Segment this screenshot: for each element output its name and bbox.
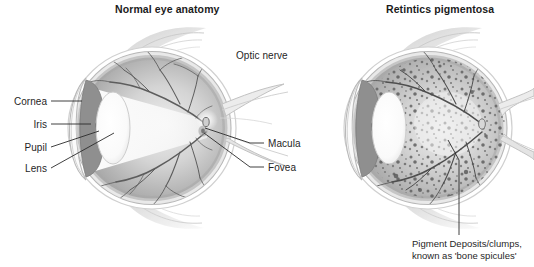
- label-iris: Iris: [0, 119, 47, 130]
- fovea-left: [201, 129, 205, 134]
- panel-title-normal: Normal eye anatomy: [115, 3, 220, 15]
- lens-right: [372, 92, 406, 164]
- caption-line-1: Pigment Deposits/clumps,: [412, 238, 534, 250]
- label-cornea: Cornea: [0, 96, 47, 107]
- retinitis-pigmentosa-eye-diagram: [344, 27, 534, 229]
- eye-comparison-figure: Normal eye anatomy Retintics pigmentosa …: [0, 0, 534, 267]
- label-macula: Macula: [268, 138, 301, 149]
- pigment-deposits-caption: Pigment Deposits/clumps, known as 'bone …: [412, 238, 534, 261]
- caption-line-2: known as 'bone spicules': [412, 250, 534, 262]
- optic-disc-left: [203, 117, 209, 126]
- eye-illustration-canvas: [0, 0, 534, 267]
- panel-title-retinitis: Retintics pigmentosa: [386, 3, 494, 15]
- label-fovea: Fovea: [268, 162, 296, 173]
- optic-disc-right: [479, 119, 486, 129]
- label-lens: Lens: [0, 163, 47, 174]
- lens-left: [96, 92, 130, 164]
- label-pupil: Pupil: [0, 142, 47, 153]
- label-optic-nerve: Optic nerve: [236, 50, 288, 61]
